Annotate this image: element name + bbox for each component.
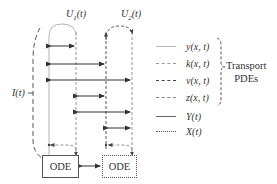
brace-label-line2: PDEs — [226, 73, 266, 86]
brace-label-line1: Transport — [226, 60, 266, 73]
brace-label: Transport PDEs — [226, 60, 266, 85]
pde-brace — [217, 38, 225, 106]
solid-line-icon — [156, 46, 176, 47]
legend-item-X: X(t) — [156, 125, 202, 137]
u1-arg: (t) — [77, 8, 86, 19]
solid-line-icon — [156, 116, 176, 117]
legend-label: v(x, t) — [186, 75, 209, 86]
legend-label: k(x, t) — [186, 58, 209, 69]
legend-item-k: k(x, t) — [156, 57, 209, 69]
ode-right-block: ODE — [102, 155, 137, 178]
legend-item-y: y(x, t) — [156, 40, 209, 52]
output-label: I(t) — [12, 88, 25, 98]
u2-arg: (t) — [132, 8, 141, 19]
u1-label: U1(t) — [66, 9, 86, 22]
pde-lines — [49, 32, 132, 156]
legend-item-z: z(x, t) — [156, 91, 209, 103]
u1-arc — [49, 24, 76, 36]
z-return-curve — [110, 145, 132, 150]
legend-label: X(t) — [186, 126, 202, 137]
legend-label: z(x, t) — [186, 92, 209, 103]
k-return-curve — [52, 145, 76, 150]
coupling-arrows — [51, 46, 130, 128]
u2-label: U2(t) — [121, 9, 141, 22]
dashed-line-icon — [156, 97, 176, 98]
u2-arc — [106, 26, 132, 36]
output-curve — [33, 28, 42, 158]
legend-label: Y(t) — [186, 111, 201, 122]
ode-left-block: ODE — [42, 155, 79, 178]
dashed-line-icon — [156, 63, 176, 64]
dotted-line-icon — [156, 131, 176, 132]
dashed-line-icon — [156, 80, 176, 81]
legend-label: y(x, t) — [186, 41, 209, 52]
legend-item-v: v(x, t) — [156, 74, 209, 86]
legend-item-Y: Y(t) — [156, 110, 201, 122]
